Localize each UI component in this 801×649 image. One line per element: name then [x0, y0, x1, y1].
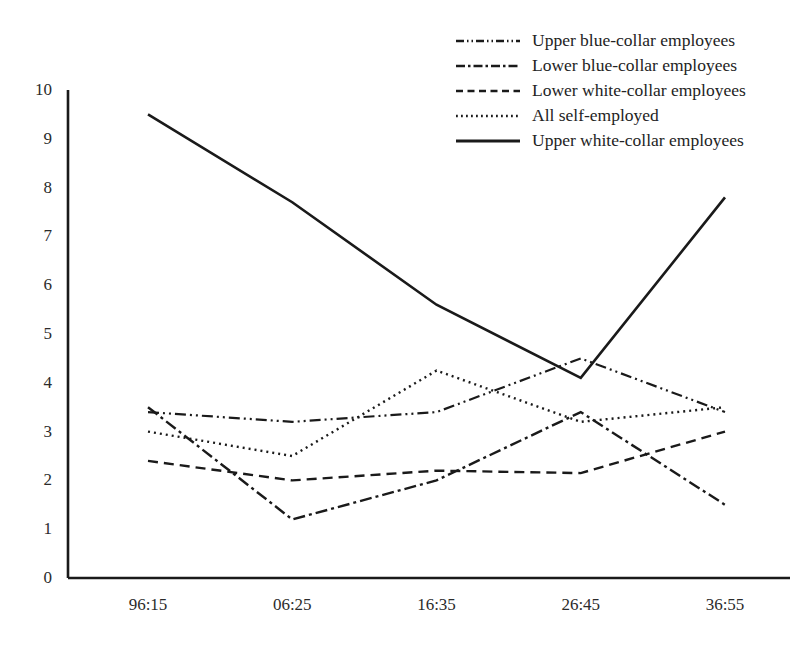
legend-item: Lower blue-collar employees	[455, 53, 795, 78]
legend-line-swatch-icon	[455, 84, 521, 98]
x-tick-label: 06:25	[247, 596, 337, 613]
legend-line-swatch-icon	[455, 109, 521, 123]
legend-item-label: Upper blue-collar employees	[532, 32, 735, 50]
y-tick-label: 10	[18, 81, 52, 98]
y-tick-label: 6	[18, 276, 52, 293]
x-tick-label: 16:35	[392, 596, 482, 613]
y-tick-label: 4	[18, 374, 52, 391]
legend-line-swatch-icon	[455, 59, 521, 73]
y-tick-label: 3	[18, 423, 52, 440]
legend-item-label: All self-employed	[532, 107, 659, 125]
x-tick-label: 26:45	[536, 596, 626, 613]
chart-legend: Upper blue-collar employeesLower blue-co…	[455, 28, 795, 153]
legend-item: Upper blue-collar employees	[455, 28, 795, 53]
legend-item-label: Upper white-collar employees	[532, 132, 744, 150]
legend-line-swatch-icon	[455, 34, 521, 48]
y-tick-label: 0	[18, 569, 52, 586]
legend-item: Upper white-collar employees	[455, 128, 795, 153]
y-tick-label: 2	[18, 471, 52, 488]
series-line-2	[148, 432, 725, 481]
series-line-3	[148, 371, 725, 456]
legend-item-label: Lower blue-collar employees	[532, 57, 737, 75]
series-line-1	[148, 407, 725, 519]
x-tick-label: 96:15	[103, 596, 193, 613]
y-tick-label: 1	[18, 520, 52, 537]
y-tick-label: 5	[18, 325, 52, 342]
series-line-4	[148, 114, 725, 378]
x-tick-label: 36:55	[680, 596, 770, 613]
line-chart: 109876543210 96:1506:2516:3526:4536:55 U…	[0, 0, 801, 649]
y-tick-label: 9	[18, 130, 52, 147]
legend-item: All self-employed	[455, 103, 795, 128]
axis-lines	[68, 90, 790, 578]
y-tick-label: 8	[18, 179, 52, 196]
legend-line-swatch-icon	[455, 134, 521, 148]
data-series-group	[148, 114, 725, 519]
series-line-0	[148, 358, 725, 421]
y-tick-label: 7	[18, 227, 52, 244]
legend-item: Lower white-collar employees	[455, 78, 795, 103]
legend-item-label: Lower white-collar employees	[532, 82, 746, 100]
